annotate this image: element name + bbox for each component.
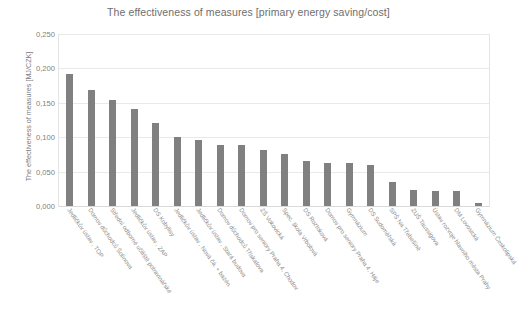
bar[interactable] <box>152 123 159 206</box>
bar[interactable] <box>66 74 73 206</box>
bars-series <box>59 34 489 206</box>
bar[interactable] <box>324 163 331 206</box>
y-axis-title: The effectiveness of measures [MJ/CZK] <box>24 37 33 197</box>
bar[interactable] <box>475 203 482 206</box>
bar[interactable] <box>238 145 245 206</box>
y-tick-label: 0,250 <box>36 30 55 39</box>
chart-title: The effectiveness of measures [primary e… <box>0 6 497 18</box>
bar[interactable] <box>453 191 460 206</box>
bar[interactable] <box>109 100 116 206</box>
x-tick-label: Gymnázium Českolipská <box>474 207 517 265</box>
x-axis-labels: Jedličkův ústav , TOPDomov důchodců Šolí… <box>58 207 488 318</box>
bar[interactable] <box>303 161 310 206</box>
bar[interactable] <box>389 182 396 206</box>
x-tick-label: DS Kobylisy <box>152 207 176 237</box>
bar[interactable] <box>260 150 267 206</box>
bar[interactable] <box>217 145 224 206</box>
y-tick-label: 0,150 <box>36 98 55 107</box>
y-tick-label: 0,050 <box>36 167 55 176</box>
bar[interactable] <box>410 190 417 207</box>
bar[interactable] <box>195 140 202 206</box>
bar[interactable] <box>367 165 374 206</box>
bar[interactable] <box>432 191 439 206</box>
y-tick-label: 0,000 <box>36 202 55 211</box>
bar[interactable] <box>88 90 95 206</box>
bar[interactable] <box>346 163 353 206</box>
bar[interactable] <box>281 154 288 206</box>
bar[interactable] <box>131 109 138 206</box>
y-tick-label: 0,200 <box>36 64 55 73</box>
y-tick-label: 0,100 <box>36 133 55 142</box>
bar[interactable] <box>174 137 181 206</box>
plot-area: 0,0000,0500,1000,1500,2000,250 <box>58 34 490 207</box>
